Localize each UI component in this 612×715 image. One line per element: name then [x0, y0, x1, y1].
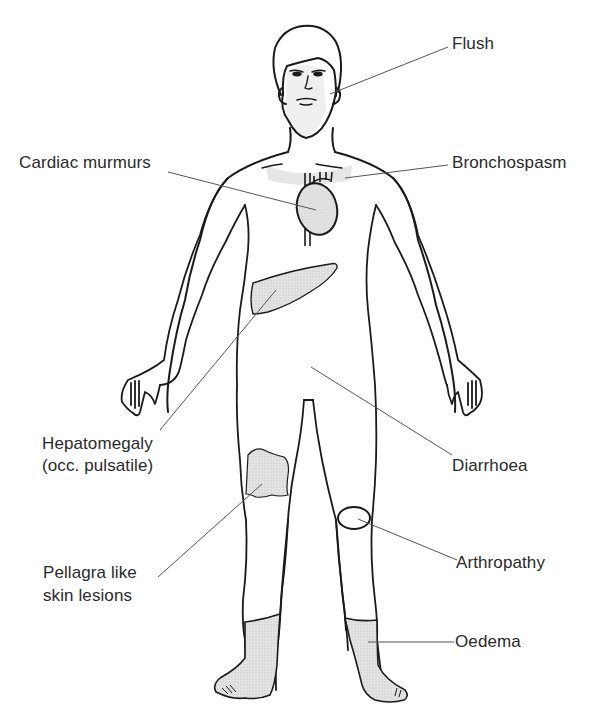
carcinoid-syndrome-diagram: Flush Bronchospasm Cardiac murmurs Hepat… [0, 0, 612, 715]
human-figure-illustration [0, 0, 612, 715]
label-hepatomegaly-note: (occ. pulsatile) [42, 455, 153, 476]
leader-arthropathy [358, 519, 457, 560]
leader-flush [330, 47, 448, 94]
leader-diarrhoea [311, 367, 452, 455]
thigh-lesion [246, 449, 289, 497]
label-oedema: Oedema [455, 631, 521, 652]
label-arthropathy: Arthropathy [456, 552, 545, 573]
leader-bronchospasm [345, 165, 448, 178]
label-cardiac-murmurs: Cardiac murmurs [19, 152, 151, 173]
label-skin-lesions: skin lesions [43, 585, 132, 606]
label-flush: Flush [452, 33, 494, 54]
label-pellagra: Pellagra like [43, 562, 137, 583]
label-hepatomegaly: Hepatomegaly [42, 433, 153, 454]
leader-hepatomegaly [160, 290, 276, 430]
liver [251, 264, 337, 315]
label-diarrhoea: Diarrhoea [452, 455, 528, 476]
leader-lines [158, 47, 457, 642]
knee-joint-circle [338, 507, 370, 529]
label-bronchospasm: Bronchospasm [452, 152, 567, 173]
